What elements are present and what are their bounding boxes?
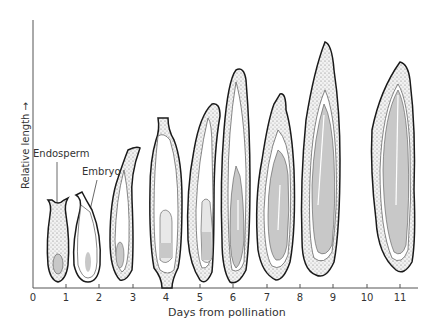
- embryo-label: Embryo: [82, 166, 121, 177]
- y-axis-label: Relative length →: [20, 101, 31, 191]
- x-tick-0: 0: [30, 292, 36, 303]
- x-tick-11: 11: [394, 292, 407, 303]
- grain-day-8: [302, 42, 341, 276]
- x-tick-6: 6: [230, 292, 236, 303]
- x-tick-3: 3: [130, 292, 136, 303]
- endosperm-label: Endosperm: [33, 148, 90, 159]
- diagram-canvas: [0, 0, 435, 330]
- grain-day-4: [150, 118, 182, 288]
- grain-day-5: [188, 104, 220, 282]
- x-tick-7: 7: [264, 292, 270, 303]
- grain-day-7: [257, 94, 295, 280]
- grain-day-6: [221, 69, 250, 283]
- grain-day-2: [74, 192, 101, 282]
- x-tick-5: 5: [197, 292, 203, 303]
- x-tick-1: 1: [63, 292, 69, 303]
- x-tick-9: 9: [330, 292, 336, 303]
- x-tick-10: 10: [361, 292, 374, 303]
- x-tick-2: 2: [96, 292, 102, 303]
- grain-day-1: [47, 198, 68, 282]
- grain-day-11: [372, 62, 415, 272]
- x-tick-4: 4: [163, 292, 169, 303]
- x-axis-label: Days from pollination: [168, 306, 286, 319]
- x-tick-8: 8: [297, 292, 303, 303]
